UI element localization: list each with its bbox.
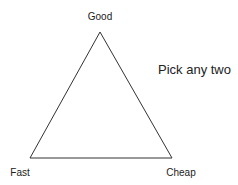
triangle-diagram [0,0,238,185]
vertex-label-cheap: Cheap [166,167,195,178]
triangle-shape [30,32,172,158]
vertex-label-fast: Fast [10,167,29,178]
vertex-label-good: Good [88,11,112,22]
caption-text: Pick any two [158,62,231,77]
